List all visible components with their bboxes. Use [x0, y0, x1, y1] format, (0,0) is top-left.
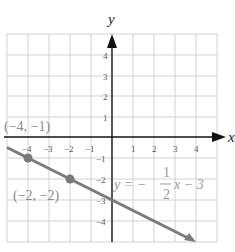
x-tick-labels: −4 −3 −2 −1 1 2 3 4 — [22, 144, 199, 154]
x-axis-arrow-icon — [212, 132, 226, 142]
svg-text:4: 4 — [194, 144, 199, 154]
x-axis-label: x — [227, 129, 235, 145]
svg-text:1: 1 — [131, 144, 136, 154]
y-tick-labels: 4 3 2 1 −1 −2 −3 −4 — [96, 51, 108, 227]
y-axis-label: y — [106, 11, 115, 27]
svg-text:y = −: y = − — [112, 177, 146, 192]
y-axis — [107, 34, 117, 242]
svg-text:4: 4 — [103, 51, 108, 61]
svg-text:−4: −4 — [22, 144, 32, 154]
svg-text:−4: −4 — [96, 217, 106, 227]
svg-text:−2: −2 — [64, 144, 74, 154]
svg-text:−3: −3 — [43, 144, 53, 154]
line-arrow-icon — [184, 233, 196, 242]
svg-text:2: 2 — [103, 92, 108, 102]
svg-text:−1: −1 — [96, 154, 106, 164]
point-neg2-neg2 — [66, 175, 75, 184]
svg-text:x − 3: x − 3 — [173, 177, 204, 192]
svg-text:2: 2 — [152, 144, 157, 154]
svg-text:2: 2 — [163, 187, 170, 202]
svg-text:3: 3 — [103, 72, 108, 82]
point-label-1: (−4, −1) — [4, 119, 50, 135]
svg-text:−1: −1 — [85, 144, 95, 154]
svg-text:3: 3 — [173, 144, 178, 154]
svg-text:1: 1 — [103, 113, 108, 123]
equation-label: y = − 1 2 x − 3 — [112, 165, 204, 202]
y-axis-arrow-icon — [107, 34, 117, 48]
point-neg4-neg1 — [24, 154, 33, 163]
point-label-2: (−2, −2) — [13, 188, 59, 204]
svg-text:1: 1 — [163, 165, 170, 180]
svg-text:−2: −2 — [96, 175, 106, 185]
coordinate-plane: x y −4 −3 −2 −1 1 2 3 4 4 3 2 1 −1 −2 −3… — [0, 0, 235, 252]
